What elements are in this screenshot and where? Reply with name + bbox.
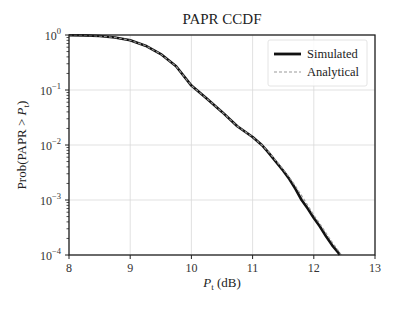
x-tick-label: 13: [369, 261, 381, 275]
y-tick-label: 100: [45, 26, 61, 43]
y-tick-label: 10−4: [40, 246, 62, 263]
x-axis-label: Pt (dB): [202, 275, 241, 292]
legend-analytical-label: Analytical: [307, 65, 360, 79]
y-axis-label: Prob(PAPR > Pt): [14, 101, 31, 190]
x-tick-label: 9: [127, 261, 133, 275]
papr-ccdf-chart: PAPR CCDF 8910111213 10010−110−210−310−4…: [0, 0, 395, 310]
chart-title: PAPR CCDF: [182, 11, 261, 27]
y-axis-ticks: 10010−110−210−310−4: [40, 26, 69, 263]
y-tick-label: 10−3: [40, 191, 61, 208]
x-tick-label: 10: [185, 261, 197, 275]
y-tick-label: 10−2: [40, 136, 61, 153]
x-tick-label: 12: [308, 261, 320, 275]
legend-simulated-label: Simulated: [307, 47, 358, 61]
legend: Simulated Analytical: [268, 40, 367, 86]
x-tick-label: 8: [66, 261, 72, 275]
y-tick-label: 10−1: [40, 81, 61, 98]
x-tick-label: 11: [247, 261, 259, 275]
x-axis-ticks: 8910111213: [66, 255, 381, 275]
